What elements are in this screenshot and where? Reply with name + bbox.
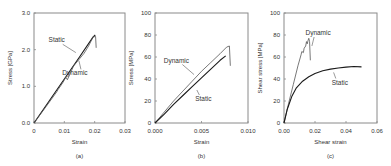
x-axis-label: Strain [194, 139, 210, 145]
annotation-leader-line [63, 44, 76, 52]
x-tick-label: 0.03 [119, 128, 131, 134]
panel-label: (a) [76, 153, 83, 159]
series-line-dynamic [34, 36, 96, 123]
x-tick-label: 0.01 [58, 128, 70, 134]
y-tick-label: 3.0 [22, 10, 31, 16]
y-tick-label: 20 [144, 98, 151, 104]
plot-frame [34, 13, 125, 123]
x-tick-label: 0.02 [89, 128, 101, 134]
annotation-static: Static [332, 79, 349, 86]
annotation-leader-line [79, 61, 81, 70]
y-tick-label: 20 [273, 98, 280, 104]
series-line-static [155, 56, 226, 123]
panel-c-shear-stress-strain-chart: 0204060801000.000.020.040.06Shear strain… [257, 10, 383, 159]
x-axis-label: Strain [72, 139, 88, 145]
x-axis-label: Shear strain [314, 139, 346, 145]
x-tick-label: 0.04 [340, 128, 352, 134]
x-tick-label: 0.000 [147, 128, 163, 134]
panel-label: (c) [327, 153, 334, 159]
annotation-dynamic: Dynamic [164, 57, 190, 65]
x-tick-label: 0.010 [240, 128, 256, 134]
y-tick-label: 80 [273, 32, 280, 38]
y-tick-label: 2.0 [22, 47, 31, 53]
y-axis-label: Shear stress [MPa] [257, 42, 263, 93]
figure: 0.01.02.03.000.010.020.03StrainStress [G… [0, 0, 391, 166]
series-line-dynamic [284, 38, 310, 123]
y-tick-label: 1.0 [22, 83, 31, 89]
annotation-static: Static [49, 36, 66, 43]
y-tick-label: 0.0 [22, 120, 31, 126]
y-tick-label: 100 [270, 10, 281, 16]
y-tick-label: 80 [144, 32, 151, 38]
annotation-static: Static [195, 95, 212, 102]
annotation-dynamic: Dynamic [305, 29, 331, 37]
y-axis-label: Stress [MPa] [128, 50, 134, 85]
panel-a-stress-strain-chart: 0.01.02.03.000.010.020.03StrainStress [G… [7, 10, 131, 159]
y-tick-label: 0 [148, 120, 152, 126]
x-tick-label: 0 [32, 128, 36, 134]
y-tick-label: 60 [144, 54, 151, 60]
y-tick-label: 40 [273, 76, 280, 82]
annotation-leader-line [312, 37, 314, 46]
x-tick-label: 0.02 [309, 128, 321, 134]
x-tick-label: 0.06 [371, 128, 383, 134]
annotation-dynamic: Dynamic [62, 69, 88, 77]
panel-b-stress-strain-chart: 0204060801000.0000.0050.010StrainStress … [128, 10, 256, 159]
x-tick-label: 0.00 [278, 128, 290, 134]
y-tick-label: 60 [273, 54, 280, 60]
y-tick-label: 40 [144, 76, 151, 82]
y-tick-label: 100 [141, 10, 152, 16]
y-axis-label: Stress [GPa] [7, 51, 13, 85]
x-tick-label: 0.005 [194, 128, 210, 134]
panel-label: (b) [198, 153, 205, 159]
y-tick-label: 0 [277, 120, 281, 126]
annotation-leader-line [182, 65, 194, 75]
